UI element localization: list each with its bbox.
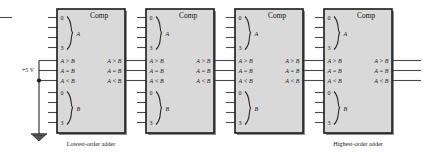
compare-out-4-1: A > B	[373, 58, 389, 64]
compare-out-3-3: A < B	[284, 78, 300, 84]
compare-out-1-2: A = B	[106, 68, 122, 74]
compare-in-2-1: A > B	[149, 58, 165, 64]
compare-in-2-3: A < B	[149, 78, 165, 84]
compare-out-4-3: A < B	[373, 78, 389, 84]
a-group-label-2: A	[165, 31, 170, 37]
a-group-label-3: A	[254, 31, 259, 37]
caption-lowest-order-adder: Lowest-order adder	[67, 140, 116, 147]
compare-out-1-1: A > B	[106, 58, 122, 64]
caption-highest-order-adder: Highest-order adder	[333, 140, 383, 147]
compare-in-1-2: A = B	[60, 68, 76, 74]
compare-out-3-2: A = B	[284, 68, 300, 74]
comp-title-3: Comp	[268, 11, 286, 20]
b-group-label-2: B	[166, 106, 170, 112]
comp-title-4: Comp	[357, 11, 375, 20]
a-group-label-1: A	[76, 31, 81, 37]
compare-in-3-1: A > B	[238, 58, 254, 64]
comparator-cascade-diagram: +5 VComp03AA > BA > BA = BA = BA < BA < …	[0, 0, 428, 159]
b-group-label-4: B	[344, 106, 348, 112]
compare-in-4-1: A > B	[327, 58, 343, 64]
power-label: +5 V	[22, 67, 35, 73]
compare-in-2-2: A = B	[149, 68, 165, 74]
compare-in-4-2: A = B	[327, 68, 343, 74]
compare-out-2-1: A > B	[195, 58, 211, 64]
a-bus-last-2: 3	[150, 45, 153, 51]
b-group-label-3: B	[255, 106, 259, 112]
a-group-label-4: A	[343, 31, 348, 37]
b-bus-first-2: 0	[150, 90, 153, 96]
compare-in-3-2: A = B	[238, 68, 254, 74]
b-bus-first-4: 0	[328, 90, 331, 96]
compare-out-3-1: A > B	[284, 58, 300, 64]
a-bus-first-4: 0	[328, 15, 331, 21]
b-bus-last-2: 3	[150, 120, 153, 126]
b-bus-first-1: 0	[61, 90, 64, 96]
a-bus-last-3: 3	[239, 45, 242, 51]
compare-in-1-3: A < B	[60, 78, 76, 84]
comp-title-2: Comp	[179, 11, 197, 20]
rail-junction-dot	[37, 78, 41, 82]
compare-out-2-3: A < B	[195, 78, 211, 84]
a-bus-first-1: 0	[61, 15, 64, 21]
compare-in-3-3: A < B	[238, 78, 254, 84]
a-bus-last-1: 3	[61, 45, 64, 51]
compare-out-4-2: A = B	[373, 68, 389, 74]
a-bus-first-2: 0	[150, 15, 153, 21]
a-bus-first-3: 0	[239, 15, 242, 21]
b-bus-last-1: 3	[61, 120, 64, 126]
ground-icon	[33, 135, 46, 141]
compare-in-4-3: A < B	[327, 78, 343, 84]
b-bus-last-3: 3	[239, 120, 242, 126]
compare-out-2-2: A = B	[195, 68, 211, 74]
comp-title-1: Comp	[90, 11, 108, 20]
compare-out-1-3: A < B	[106, 78, 122, 84]
a-bus-last-4: 3	[328, 45, 331, 51]
compare-in-1-1: A > B	[60, 58, 76, 64]
b-group-label-1: B	[77, 106, 81, 112]
b-bus-first-3: 0	[239, 90, 242, 96]
diagram-canvas: +5 VComp03AA > BA > BA = BA = BA < BA < …	[0, 0, 428, 159]
b-bus-last-4: 3	[328, 120, 331, 126]
